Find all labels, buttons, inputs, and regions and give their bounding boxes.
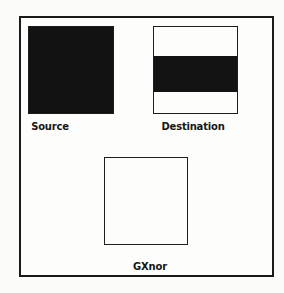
destination-label: Destination: [161, 121, 224, 132]
destination-black-band: [154, 56, 237, 92]
gxnor-result-box: [104, 157, 188, 245]
source-label: Source: [31, 121, 69, 132]
destination-box: [153, 26, 238, 114]
source-box: [28, 26, 114, 114]
gxnor-label: GXnor: [133, 261, 167, 272]
